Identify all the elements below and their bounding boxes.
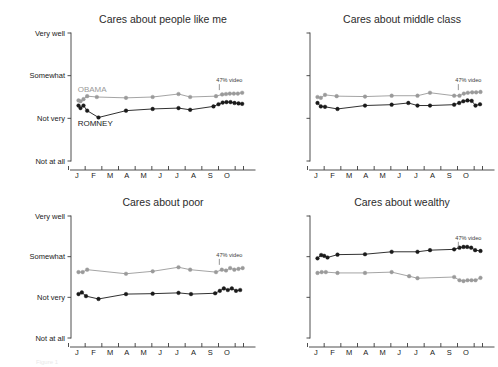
data-point-obama-0 <box>77 270 81 274</box>
data-point-obama-12 <box>237 267 241 271</box>
data-point-romney-5 <box>363 252 367 256</box>
x-tick-label-8: S <box>208 171 213 180</box>
x-tick-label-5: J <box>158 348 162 357</box>
data-point-romney-16 <box>240 102 244 106</box>
data-point-romney-11 <box>221 101 225 105</box>
data-point-romney-2 <box>82 104 86 108</box>
data-point-obama-5 <box>124 96 128 100</box>
data-point-romney-10 <box>457 101 461 105</box>
x-tick-label-5: J <box>397 171 401 180</box>
data-point-romney-4 <box>124 292 128 296</box>
data-point-romney-9 <box>218 289 222 293</box>
data-point-romney-9 <box>452 103 456 107</box>
data-point-obama-12 <box>470 278 474 282</box>
data-point-obama-7 <box>416 276 420 280</box>
x-tick-label-1: F <box>330 171 335 180</box>
x-tick-label-3: A <box>363 171 368 180</box>
data-point-obama-10 <box>220 93 224 97</box>
data-point-obama-7 <box>177 92 181 96</box>
x-tick-label-1: F <box>91 171 96 180</box>
data-point-romney-5 <box>124 109 128 113</box>
data-point-romney-7 <box>177 106 181 110</box>
data-point-romney-11 <box>462 245 466 249</box>
data-point-romney-2 <box>84 294 88 298</box>
x-tick-label-7: A <box>430 171 435 180</box>
data-point-obama-9 <box>458 278 462 282</box>
data-point-romney-9 <box>212 105 216 109</box>
x-tick-label-9: O <box>463 171 469 180</box>
data-point-romney-14 <box>474 104 478 108</box>
data-point-romney-14 <box>238 288 242 292</box>
x-tick-label-4: M <box>140 348 146 357</box>
data-point-obama-10 <box>228 266 232 270</box>
x-tick-label-4: M <box>140 171 146 180</box>
x-tick-label-2: M <box>346 348 352 357</box>
data-point-romney-12 <box>466 99 470 103</box>
x-tick-label-1: F <box>330 348 335 357</box>
data-point-obama-13 <box>474 278 478 282</box>
data-point-romney-6 <box>406 101 410 105</box>
data-point-romney-3 <box>336 107 340 111</box>
data-point-obama-9 <box>214 94 218 98</box>
data-point-obama-3 <box>124 272 128 276</box>
data-point-obama-13 <box>232 92 236 96</box>
x-tick-label-9: O <box>463 348 469 357</box>
x-tick-label-7: A <box>191 348 196 357</box>
x-tick-label-5: J <box>397 348 401 357</box>
data-point-romney-8 <box>428 248 432 252</box>
panel-title-top-left: Cares about people like me <box>99 13 227 25</box>
data-point-obama-4 <box>95 95 99 99</box>
data-point-obama-4 <box>151 269 155 273</box>
data-point-romney-4 <box>363 104 367 108</box>
x-tick-label-0: J <box>75 171 79 180</box>
x-tick-label-9: O <box>224 171 230 180</box>
data-point-romney-15 <box>237 102 241 106</box>
data-point-romney-3 <box>326 256 330 260</box>
data-point-romney-15 <box>479 249 483 253</box>
data-point-obama-5 <box>390 270 394 274</box>
x-tick-label-0: J <box>314 348 318 357</box>
data-point-obama-0 <box>316 95 320 99</box>
data-point-romney-13 <box>234 289 238 293</box>
data-point-obama-11 <box>232 268 236 272</box>
data-point-obama-6 <box>416 94 420 98</box>
x-tick-label-9: O <box>224 348 230 357</box>
data-point-romney-12 <box>230 287 234 291</box>
chart-panel-top-left: Cares about people like meNot at allNot … <box>30 13 255 180</box>
x-tick-label-3: A <box>124 171 129 180</box>
data-point-obama-13 <box>241 266 245 270</box>
data-point-romney-11 <box>226 288 230 292</box>
series-label-obama: OBAMA <box>78 85 108 94</box>
data-point-obama-5 <box>177 265 181 269</box>
series-line-obama <box>79 267 243 274</box>
y-tick-label-1: Not very <box>37 114 65 123</box>
y-tick-label-3: Very well <box>35 29 65 38</box>
data-point-obama-10 <box>462 92 466 96</box>
annotation-label-bottom-right: 47% video <box>455 235 481 241</box>
data-point-romney-11 <box>461 99 465 103</box>
data-point-romney-6 <box>390 250 394 254</box>
data-point-obama-10 <box>462 279 466 283</box>
data-point-obama-11 <box>224 92 228 96</box>
data-point-romney-3 <box>97 297 101 301</box>
data-point-obama-2 <box>324 270 328 274</box>
data-point-romney-8 <box>213 291 217 295</box>
data-point-obama-2 <box>85 268 89 272</box>
chart-panel-bottom-right: Cares about wealthyJFMAMJJASO47% video <box>307 196 495 357</box>
data-point-romney-6 <box>151 107 155 111</box>
data-point-romney-7 <box>416 250 420 254</box>
data-point-obama-2 <box>82 97 86 101</box>
data-point-obama-7 <box>428 91 432 95</box>
data-point-obama-14 <box>479 90 483 94</box>
data-point-romney-0 <box>77 292 81 296</box>
data-point-obama-1 <box>81 270 85 274</box>
x-tick-label-6: J <box>414 348 418 357</box>
data-point-obama-2 <box>323 93 327 97</box>
data-point-romney-3 <box>85 109 89 113</box>
data-point-romney-14 <box>233 101 237 105</box>
y-tick-label-0: Not at all <box>35 157 65 166</box>
data-point-obama-3 <box>336 271 340 275</box>
data-point-obama-12 <box>470 90 474 94</box>
data-point-romney-7 <box>416 104 420 108</box>
data-point-romney-12 <box>465 245 469 249</box>
